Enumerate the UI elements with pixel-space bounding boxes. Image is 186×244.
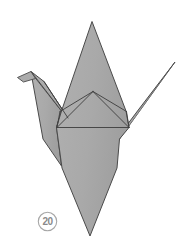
step-badge-circle-icon: 20 — [37, 211, 58, 232]
origami-diagram: 20 — [0, 0, 186, 244]
body-group — [57, 22, 130, 237]
step-number-label: 20 — [43, 216, 54, 227]
crane-illustration — [0, 0, 186, 244]
body-shape — [57, 22, 130, 237]
step-number-badge: 20 — [37, 211, 58, 232]
